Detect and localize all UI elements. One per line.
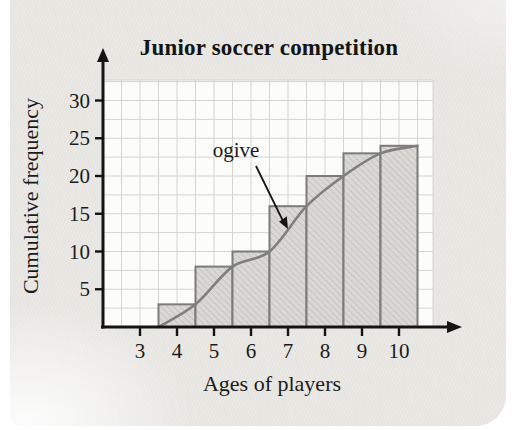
x-tick-label: 10 xyxy=(389,339,410,363)
x-tick-label: 8 xyxy=(320,339,331,363)
x-tick-label: 5 xyxy=(209,339,220,363)
bar-age-7 xyxy=(270,206,307,327)
bar-age-5 xyxy=(196,267,233,327)
chart-canvas: 51015202530345678910 xyxy=(0,0,513,430)
ogive-annotation-label: ogive xyxy=(186,139,286,162)
bar-age-8 xyxy=(307,176,344,327)
figure: 51015202530345678910 Junior soccer compe… xyxy=(0,0,513,430)
x-axis-label: Ages of players xyxy=(122,372,422,396)
x-tick-label: 4 xyxy=(172,339,183,363)
y-tick-label: 30 xyxy=(69,89,90,113)
x-tick-label: 3 xyxy=(135,339,146,363)
y-tick-label: 25 xyxy=(69,126,90,150)
x-tick-label: 9 xyxy=(357,339,368,363)
x-tick-label: 6 xyxy=(246,339,257,363)
y-tick-label: 10 xyxy=(69,240,90,264)
bar-age-9 xyxy=(344,153,381,327)
x-tick-label: 7 xyxy=(283,339,294,363)
chart-title: Junior soccer competition xyxy=(103,35,435,60)
y-tick-label: 5 xyxy=(80,277,91,301)
bar-age-10 xyxy=(381,146,418,327)
y-tick-label: 20 xyxy=(69,164,90,188)
x-axis-arrowhead-icon xyxy=(447,321,462,333)
y-axis-label: Cumulative frequency xyxy=(19,46,45,346)
y-tick-label: 15 xyxy=(69,202,90,226)
